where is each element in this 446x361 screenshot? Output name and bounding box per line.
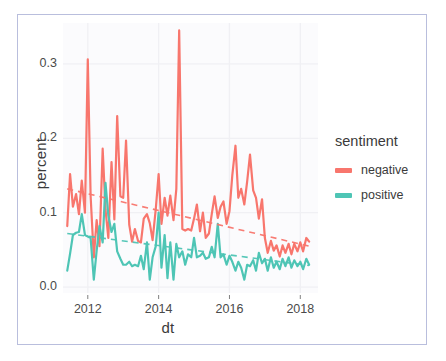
- legend-title: sentiment: [335, 133, 427, 149]
- legend-swatch-icon: [335, 193, 352, 198]
- y-tick-label: 0.1: [23, 205, 57, 219]
- y-tick-label: 0.0: [23, 279, 57, 293]
- y-axis-title: percent: [32, 114, 49, 214]
- legend-item-positive[interactable]: positive: [335, 184, 427, 206]
- x-tick-label: 2016: [204, 302, 254, 316]
- x-tick-label: 2018: [275, 302, 325, 316]
- legend-entries: negativepositive: [335, 159, 427, 206]
- x-axis-title: dt: [38, 319, 298, 336]
- legend-item-negative[interactable]: negative: [335, 159, 427, 181]
- figure-frame: percent dt 0.00.10.20.3 2012201420162018…: [17, 14, 427, 345]
- legend-item-label: negative: [361, 163, 408, 177]
- x-tick-label: 2014: [134, 302, 184, 316]
- chart-plot: percent dt 0.00.10.20.3 2012201420162018…: [18, 15, 428, 346]
- legend-item-label: positive: [361, 188, 403, 202]
- x-tick-label: 2012: [63, 302, 113, 316]
- y-tick-label: 0.3: [23, 56, 57, 70]
- legend-swatch-icon: [335, 168, 352, 173]
- y-tick-label: 0.2: [23, 130, 57, 144]
- legend: sentiment negativepositive: [335, 133, 427, 209]
